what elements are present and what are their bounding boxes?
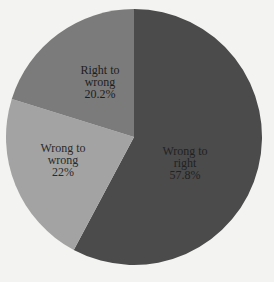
slice-label-wrong-to-wrong: Wrong to wrong 22% [40,142,85,178]
pie-slices [6,9,262,265]
slice-label-percent: 57.8% [162,169,207,181]
slice-label-percent: 22% [40,166,85,178]
slice-label-percent: 20.2% [80,88,119,100]
slice-label-wrong-to-right: Wrong to right 57.8% [162,145,207,181]
slice-label-right-to-wrong: Right to wrong 20.2% [80,64,119,100]
